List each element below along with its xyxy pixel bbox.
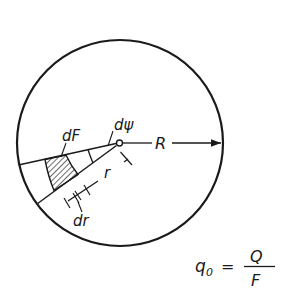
formula-equals: =: [221, 257, 234, 276]
r-dim-tick-end: [121, 152, 133, 165]
formula-denominator: F: [251, 271, 261, 290]
dr-leader: [78, 202, 82, 212]
label-dpsi: dψ: [114, 116, 135, 134]
angle-arc: [88, 150, 93, 163]
label-dr: dr: [73, 212, 90, 230]
label-dF: dF: [62, 127, 81, 145]
center-point: [117, 140, 123, 146]
formula: q 0 = Q F: [195, 247, 275, 290]
formula-subscript: 0: [206, 266, 213, 279]
plate-diagram: R dψ dF r dr q 0 = Q F: [0, 0, 286, 305]
label-r: r: [104, 164, 111, 182]
formula-numerator: Q: [250, 247, 263, 266]
formula-lhs: q: [195, 256, 206, 276]
hatched-area-element: [45, 155, 78, 191]
label-R: R: [155, 134, 166, 153]
r-dim-line-lower: [68, 181, 98, 201]
